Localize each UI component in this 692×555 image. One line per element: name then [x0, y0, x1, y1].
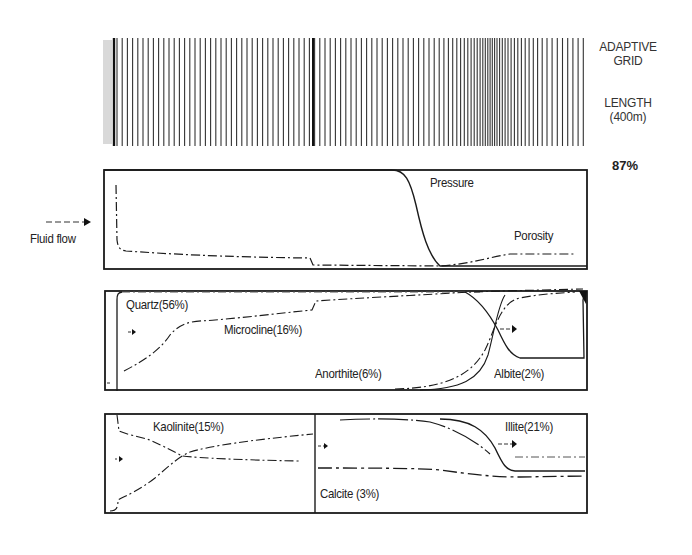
- adaptive-label-line1: ADAPTIVE: [588, 40, 668, 54]
- illite-upper-curve: [340, 419, 490, 454]
- calcite-curve: [318, 468, 585, 477]
- figure-canvas: [0, 0, 692, 555]
- albite-curve: [465, 291, 585, 358]
- flow-marker-5-head: [512, 440, 517, 448]
- panel-pressure-porosity: [104, 170, 587, 269]
- flow-marker-4-head: [324, 443, 328, 449]
- kaolinite-lower-curve: [110, 434, 313, 511]
- flow-marker-1-head: [132, 329, 136, 335]
- porosity-curve: [116, 185, 575, 266]
- length-label-line1: LENGTH: [588, 96, 668, 110]
- fluid-flow-label: Fluid flow: [30, 231, 76, 246]
- calcite-label: Calcite (3%): [320, 486, 379, 501]
- flow-marker-3-head: [119, 456, 123, 462]
- figure: ADAPTIVE GRID LENGTH (400m) 87% Fluid fl…: [0, 0, 692, 555]
- quartz-edge-line: [117, 292, 122, 391]
- flow-marker-2-head: [512, 325, 517, 333]
- quartz-label: Quartz(56%): [126, 297, 188, 312]
- kaolinite-label: Kaolinite(15%): [153, 419, 224, 434]
- anorthite-label: Anorthite(6%): [315, 366, 382, 381]
- pressure-curve: [104, 170, 587, 266]
- fluid-flow-arrow: [46, 218, 91, 226]
- adaptive-grid-label: ADAPTIVE GRID: [588, 40, 668, 68]
- microcline-label: Microcline(16%): [224, 322, 302, 337]
- pressure-label: Pressure: [430, 175, 474, 190]
- porosity-label: Porosity: [514, 228, 553, 243]
- illite-label: Illite(21%): [505, 419, 553, 434]
- length-label-line2: (400m): [588, 110, 668, 124]
- adaptive-grid: [117, 38, 583, 146]
- adaptive-label-line2: GRID: [588, 54, 668, 68]
- grid-left-strip: [103, 40, 112, 144]
- anorthite-solid-curve: [420, 295, 505, 390]
- refinement-percent: 87%: [612, 158, 638, 173]
- albite-label: Albite(2%): [494, 366, 544, 381]
- length-label: LENGTH (400m): [588, 96, 668, 124]
- anorthite-curve: [395, 292, 575, 389]
